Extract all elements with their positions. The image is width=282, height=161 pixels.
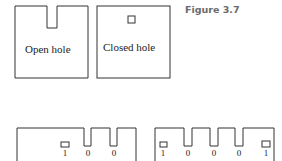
closed-hole-icon: [61, 142, 69, 147]
digit: 1: [261, 148, 271, 158]
digit: 0: [109, 148, 119, 158]
digit: 1: [158, 148, 168, 158]
closed-hole-icon: [262, 141, 270, 147]
digit: 0: [209, 148, 219, 158]
digit: 0: [83, 148, 93, 158]
closed-hole-icon: [128, 16, 135, 23]
open-hole-card: [15, 6, 88, 78]
figure-caption: Figure 3.7: [185, 4, 240, 15]
digit: 0: [183, 148, 193, 158]
diagram-canvas: [0, 0, 282, 161]
digit: 1: [60, 148, 70, 158]
open-hole-label: Open hole: [25, 43, 71, 55]
closed-hole-label: Closed hole: [103, 41, 155, 53]
closed-hole-icon: [160, 142, 167, 147]
digit: 0: [234, 148, 244, 158]
